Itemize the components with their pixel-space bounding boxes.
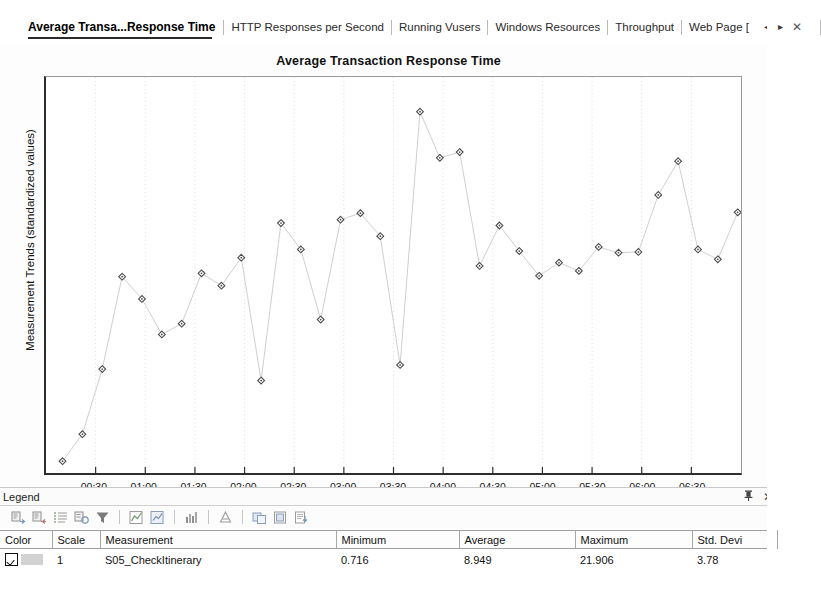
filter-glyph (95, 510, 110, 525)
tab-windows-resources[interactable]: Windows Resources (488, 16, 607, 38)
export-icon[interactable] (293, 509, 310, 526)
tab-nav-controls[interactable]: ◂ ▸ ✕ (756, 20, 821, 35)
color-swatch (21, 554, 43, 565)
cell-measurement: S05_CheckItinerary (100, 549, 336, 571)
column-header-std-dev[interactable]: Std. Devi (692, 531, 777, 549)
legend-panel: Legend ✕ (0, 487, 777, 594)
tab-average-transaction-response-time[interactable]: Average Transa...Response Time (0, 16, 223, 38)
show-trend-icon[interactable] (128, 509, 145, 526)
toolbar-separator (242, 510, 243, 524)
cell-std-dev: 3.78 (692, 549, 777, 571)
legend-toolbar[interactable] (0, 506, 777, 528)
tab-label: Web Page [ (689, 21, 749, 33)
tab-label: Average Transa...Response Time (28, 20, 215, 34)
measurement-options-glyph (74, 510, 89, 525)
column-header-measurement[interactable]: Measurement (100, 531, 336, 549)
show-trend-glyph (129, 510, 144, 525)
granularity-glyph (218, 510, 233, 525)
tab-http-responses-per-second[interactable]: HTTP Responses per Second (224, 16, 391, 38)
pin-icon[interactable] (744, 490, 753, 503)
configure-measurements-glyph (53, 510, 68, 525)
filter-icon[interactable] (94, 509, 111, 526)
tab-label: HTTP Responses per Second (231, 21, 384, 33)
window-right-bezel (767, 0, 777, 594)
column-header-scale[interactable]: Scale (52, 531, 100, 549)
merge-graphs-icon[interactable] (251, 509, 268, 526)
overlay-graph-glyph (273, 510, 288, 525)
toolbar-separator (208, 510, 209, 524)
cell-color[interactable] (0, 549, 52, 571)
graph-panel: Average Transaction Response Time Measur… (0, 44, 777, 487)
tab-label: Throughput (615, 21, 674, 33)
tab-label: Windows Resources (495, 21, 600, 33)
show-measurement-icon[interactable] (10, 509, 27, 526)
cell-maximum: 21.906 (575, 549, 692, 571)
plot-area[interactable] (44, 76, 742, 475)
column-header-minimum[interactable]: Minimum (336, 531, 459, 549)
column-header-color[interactable]: Color (0, 531, 52, 549)
cell-minimum: 0.716 (336, 549, 459, 571)
measurement-options-icon[interactable] (73, 509, 90, 526)
show-measurement-glyph (11, 510, 26, 525)
bar-chart-icon[interactable] (183, 509, 200, 526)
chart-svg (46, 77, 741, 473)
merge-graphs-glyph (252, 510, 267, 525)
tab-throughput[interactable]: Throughput (608, 16, 681, 38)
tab-running-vusers[interactable]: Running Vusers (392, 16, 487, 38)
tab-label: Running Vusers (399, 21, 480, 33)
tab-close-icon[interactable]: ✕ (792, 20, 802, 34)
hide-measurement-icon[interactable] (31, 509, 48, 526)
legend-caption: Legend (0, 491, 40, 503)
tab-scroll-right-icon[interactable]: ▸ (778, 22, 783, 32)
legend-table[interactable]: Color Scale Measurement Minimum Average … (0, 530, 778, 570)
hide-measurement-glyph (32, 510, 47, 525)
auto-correlate-icon[interactable] (149, 509, 166, 526)
cell-average: 8.949 (459, 549, 575, 571)
toolbar-separator (174, 510, 175, 524)
granularity-icon[interactable] (217, 509, 234, 526)
legend-header: Legend ✕ (0, 488, 777, 506)
configure-measurements-icon[interactable] (52, 509, 69, 526)
table-row[interactable]: 1 S05_CheckItinerary 0.716 8.949 21.906 … (0, 549, 777, 571)
column-header-maximum[interactable]: Maximum (575, 531, 692, 549)
legend-table-header-row: Color Scale Measurement Minimum Average … (0, 531, 777, 549)
bar-chart-glyph (184, 510, 199, 525)
toolbar-separator (119, 510, 120, 524)
row-checkbox[interactable] (5, 553, 18, 566)
chart-title: Average Transaction Response Time (0, 54, 777, 68)
auto-correlate-glyph (150, 510, 165, 525)
y-axis-label: Measurement Trends (standardized values) (24, 80, 36, 400)
pin-icon-svg (744, 490, 753, 501)
active-tab-underline (28, 37, 212, 39)
cell-scale: 1 (52, 549, 100, 571)
export-glyph (294, 510, 309, 525)
tab-web-page-diagnostics[interactable]: Web Page [ (682, 16, 756, 38)
overlay-graph-icon[interactable] (272, 509, 289, 526)
column-header-average[interactable]: Average (459, 531, 575, 549)
